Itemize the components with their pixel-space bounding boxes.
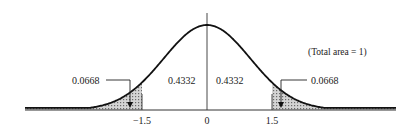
tick-label-0: 0 <box>205 115 210 126</box>
right-tail-label: 0.0668 <box>311 75 339 86</box>
left-center-label: 0.4332 <box>168 75 196 86</box>
right-center-label: 0.4332 <box>216 75 244 86</box>
normal-distribution-diagram: 0.0668 0.4332 0.4332 0.0668 (Total area … <box>0 0 414 130</box>
left-tail-label: 0.0668 <box>72 75 100 86</box>
total-area-note: (Total area = 1) <box>308 47 367 58</box>
normal-curve <box>25 25 396 108</box>
tick-label-neg-1-5: −1.5 <box>133 115 151 126</box>
tick-label-1-5: 1.5 <box>266 115 279 126</box>
